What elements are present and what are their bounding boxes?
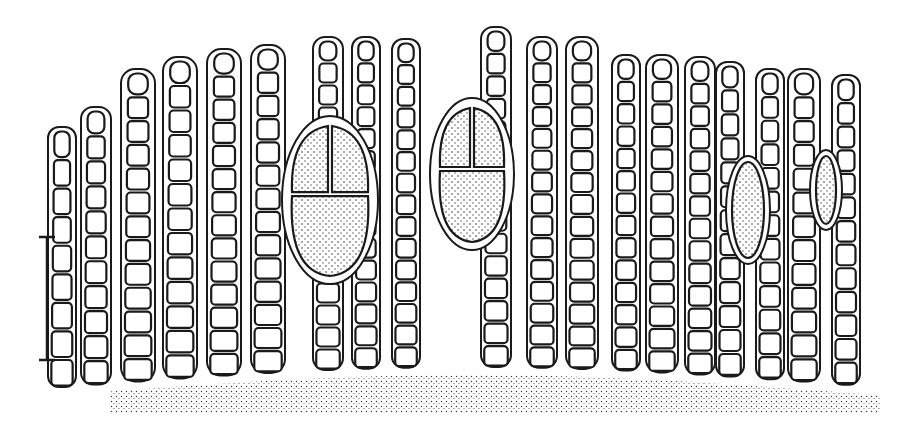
filament: [163, 57, 197, 378]
algal-filaments-drawing: [0, 0, 924, 436]
illustration: [0, 0, 924, 436]
filament: [48, 127, 76, 387]
filament: [685, 57, 715, 375]
filament: [788, 69, 820, 382]
filament: [251, 45, 285, 373]
stippled-base: [110, 375, 880, 413]
filament: [207, 49, 241, 376]
sporangium: [282, 116, 378, 284]
sporangium: [430, 98, 514, 250]
sporangium: [810, 150, 842, 230]
filament: [612, 55, 640, 371]
filament: [527, 37, 557, 368]
filament: [121, 69, 155, 381]
filament: [81, 107, 111, 385]
filament: [646, 55, 678, 372]
sporangium: [726, 156, 770, 264]
filament: [392, 39, 420, 368]
filament: [566, 37, 598, 369]
filament: [832, 75, 860, 385]
